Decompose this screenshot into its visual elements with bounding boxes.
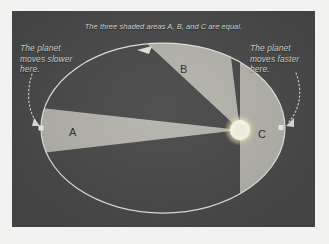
sector-label-a: A <box>69 126 77 138</box>
dotted-pointer-arrowhead-icon <box>32 118 40 126</box>
diagram-panel: The three shaded areas A, B, and C are e… <box>12 11 315 227</box>
dotted-pointer-arrow-icon <box>288 73 300 123</box>
left-annotation-caption: The planet moves slower here. <box>20 43 94 75</box>
sector-label-b: B <box>180 63 188 75</box>
dotted-pointer-arrow-icon <box>29 74 37 123</box>
sector-b-shape <box>141 25 240 130</box>
dotted-pointer-arrowhead-icon <box>286 118 294 127</box>
sector-a-shape <box>32 107 240 154</box>
planet-dot-icon <box>279 125 284 130</box>
planet-dot-icon <box>39 126 44 131</box>
sun-core-icon <box>234 124 246 136</box>
sector-label-c: C <box>258 128 266 140</box>
right-annotation-caption: The planet moves faster here. <box>250 43 315 75</box>
title-caption: The three shaded areas A, B, and C are e… <box>85 22 242 31</box>
diagram-root: The three shaded areas A, B, and C are e… <box>0 0 329 244</box>
orbit-direction-arrow-icon <box>137 46 152 54</box>
